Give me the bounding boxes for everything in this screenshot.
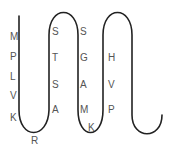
residue-label: S xyxy=(52,26,59,37)
polypeptide-chain xyxy=(19,13,162,134)
residue-label: L xyxy=(10,71,16,82)
residue-label: G xyxy=(80,52,88,63)
residue-label: P xyxy=(108,104,115,115)
residue-label: A xyxy=(80,79,87,90)
residue-label: K xyxy=(10,112,17,123)
residue-labels: MPLVKRSTSASGAMKHVP xyxy=(10,26,115,146)
residue-label: S xyxy=(52,79,59,90)
topology-diagram: MPLVKRSTSASGAMKHVP xyxy=(0,0,179,152)
residue-label: M xyxy=(10,31,18,42)
residue-label: R xyxy=(31,135,38,146)
residue-label: P xyxy=(10,51,17,62)
residue-label: V xyxy=(108,79,115,90)
residue-label: M xyxy=(80,104,88,115)
residue-label: V xyxy=(10,90,17,101)
residue-label: A xyxy=(52,104,59,115)
residue-label: H xyxy=(108,52,115,63)
residue-label: T xyxy=(52,52,58,63)
residue-label: S xyxy=(80,26,87,37)
residue-label: K xyxy=(88,122,95,133)
